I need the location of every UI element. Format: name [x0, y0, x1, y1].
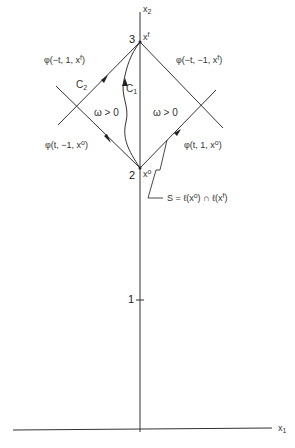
region-left-label: ω > 0 [94, 108, 119, 118]
ll-text: φ(t, −1, x [45, 140, 81, 150]
ul-text: φ(−t, 1, x [44, 55, 80, 65]
trajectory-upper-left-label: φ(−t, 1, xf) [44, 56, 85, 65]
arrow-c2-icon [101, 75, 108, 83]
c1-sub: 1 [133, 88, 137, 95]
xf-sup: f [148, 31, 150, 38]
ur-text: φ(−t, −1, x [176, 55, 217, 65]
diagram-canvas [0, 0, 295, 448]
s-end: ) [224, 193, 227, 203]
point-xf-label: xf [143, 33, 149, 42]
edge-lower-right [140, 90, 216, 168]
curve-c1-label: C1 [126, 84, 137, 94]
ll-close: ) [85, 140, 88, 150]
edge-lower-left [56, 86, 140, 168]
x1-text: x [278, 423, 283, 433]
c2-sub: 2 [83, 84, 87, 91]
lr-text: φ(t, 1, x [184, 140, 215, 150]
ur-close: ) [219, 55, 222, 65]
xf-text: x [143, 32, 148, 42]
point-xf [139, 41, 142, 44]
x1-axis-label: x1 [278, 424, 286, 433]
xo-text: x [143, 169, 148, 179]
point-3-number: 3 [129, 34, 135, 45]
trajectory-upper-right-label: φ(−t, −1, xf) [176, 56, 222, 65]
point-xo-label: xo [143, 170, 151, 179]
s-text: S = ℓ(x [167, 193, 194, 203]
lr-sup: o [215, 139, 219, 146]
trajectory-lower-left-label: φ(t, −1, xo) [45, 141, 88, 150]
ll-sup: o [81, 139, 85, 146]
curve-c2-label: C2 [76, 80, 87, 90]
s-sup1: o [194, 192, 198, 199]
s-annotation: S = ℓ(xo) ∩ ℓ(xf) [167, 194, 227, 203]
point-xo [139, 167, 142, 170]
x2-sub: 2 [148, 8, 152, 15]
curve-c1 [123, 42, 140, 168]
region-right-label: ω > 0 [153, 108, 178, 118]
s-mid: ) ∩ ℓ(x [198, 193, 223, 203]
lr-close: ) [219, 140, 222, 150]
xo-sup: o [148, 168, 152, 175]
x1-sub: 1 [283, 427, 287, 434]
point-2-number: 2 [129, 170, 135, 181]
x1-axis [13, 428, 272, 430]
ul-close: ) [82, 55, 85, 65]
trajectory-lower-right-label: φ(t, 1, xo) [184, 141, 222, 150]
x2-text: x [143, 4, 148, 14]
tick-1-label: 1 [128, 294, 134, 305]
x2-axis-label: x2 [143, 5, 151, 14]
ul-sup: f [80, 54, 82, 61]
